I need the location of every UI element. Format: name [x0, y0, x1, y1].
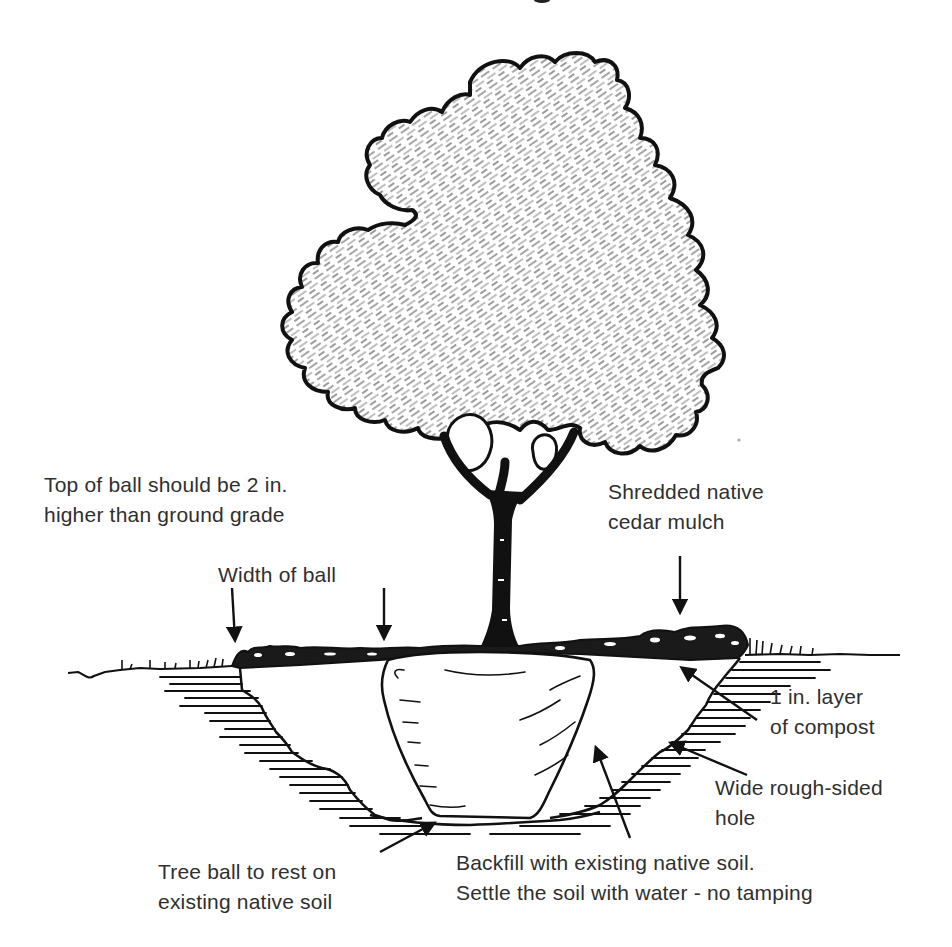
label-width-of-ball-line1: Width of ball — [218, 560, 336, 590]
label-hole: Wide rough-sided hole — [715, 773, 883, 833]
label-top-of-ball-line2: higher than ground grade — [44, 500, 288, 530]
label-tree-ball-line1: Tree ball to rest on — [158, 857, 336, 887]
label-hole-line1: Wide rough-sided — [715, 773, 883, 803]
label-tree-ball: Tree ball to rest on existing native soi… — [158, 857, 336, 917]
label-mulch-line2: cedar mulch — [608, 507, 764, 537]
label-hole-line2: hole — [715, 803, 883, 833]
label-compost-line2: of compost — [770, 712, 875, 742]
ground-grade-right — [745, 654, 900, 655]
tree-canopy — [282, 53, 724, 454]
grass-right — [750, 638, 813, 655]
label-compost: 1 in. layer of compost — [770, 682, 875, 742]
label-backfill: Backfill with existing native soil. Sett… — [456, 848, 813, 908]
arrow-backfill — [596, 748, 630, 838]
title-fragment — [534, 0, 550, 3]
root-ball — [382, 652, 594, 818]
label-mulch: Shredded native cedar mulch — [608, 477, 764, 537]
label-backfill-line1: Backfill with existing native soil. — [456, 848, 813, 878]
label-top-of-ball: Top of ball should be 2 in. higher than … — [44, 470, 288, 530]
label-tree-ball-line2: existing native soil — [158, 887, 336, 917]
arrow-tree-ball — [380, 823, 434, 852]
label-top-of-ball-line1: Top of ball should be 2 in. — [44, 470, 288, 500]
arrow-hole — [671, 743, 747, 775]
label-mulch-line1: Shredded native — [608, 477, 764, 507]
label-width-of-ball: Width of ball — [218, 560, 336, 590]
arrow-width-left — [232, 588, 235, 640]
tree-trunk — [480, 490, 524, 648]
label-backfill-line2: Settle the soil with water - no tamping — [456, 878, 813, 908]
label-compost-line1: 1 in. layer — [770, 682, 875, 712]
